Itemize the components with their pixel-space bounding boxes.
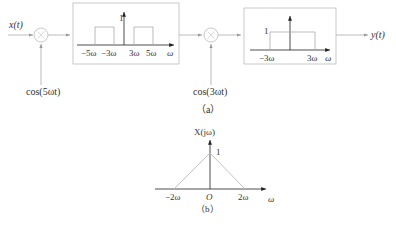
- caption-b: （b）: [196, 205, 219, 214]
- carrier2-label: cos(3ωt): [193, 87, 227, 97]
- filter1-tick-neg5: −5ω: [81, 49, 97, 58]
- filter1-tick-neg3: −3ω: [101, 49, 117, 58]
- spectrum-origin-label: O: [206, 193, 213, 202]
- filter2-tick-neg3: −3ω: [259, 54, 275, 63]
- input-label: x(t): [9, 20, 23, 30]
- spectrum-axis-label: ω: [268, 195, 274, 204]
- spectrum-tick-2: 2ω: [238, 193, 248, 202]
- spectrum-peak-label: 1: [216, 148, 221, 157]
- filter2-axis-label: ω: [325, 54, 331, 63]
- spectrum-tick-neg2: −2ω: [165, 193, 181, 202]
- filter1-tick-3: 3ω: [129, 49, 139, 58]
- carrier1-label: cos(5ωt): [26, 87, 60, 97]
- spectrum-plot-b: [155, 140, 266, 189]
- filter1-amplitude-label: 1: [119, 14, 124, 23]
- filter1-axis-label: ω: [167, 49, 173, 58]
- multiplier-1: [34, 28, 48, 42]
- multiplier-2: [204, 28, 218, 42]
- filter1-tick-5: 5ω: [146, 49, 156, 58]
- spectrum-y-label: X(jω): [194, 128, 215, 137]
- filter2-amplitude-label: 1: [264, 27, 269, 36]
- filter2-tick-3: 3ω: [307, 54, 317, 63]
- output-label: y(t): [371, 30, 385, 40]
- filter2-box: [244, 8, 336, 64]
- caption-a: （a）: [196, 105, 220, 115]
